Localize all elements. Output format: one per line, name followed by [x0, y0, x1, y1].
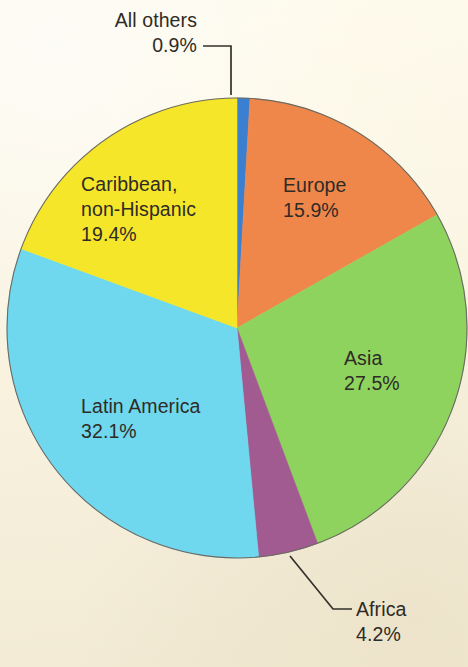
- africa-leader-line: [290, 556, 352, 609]
- all-others-leader-line: [203, 46, 231, 95]
- slice-label-latin-america-value: 32.1%: [81, 420, 137, 442]
- slice-label-africa-name: Africa: [356, 598, 406, 620]
- pie-chart-svg: All others 0.9% Europe 15.9% Asia 27.5% …: [0, 0, 468, 667]
- slice-label-africa-value: 4.2%: [356, 623, 401, 645]
- slice-label-europe-value: 15.9%: [283, 199, 339, 221]
- pie-slices-group: [7, 98, 467, 558]
- slice-label-all-others-name: All others: [115, 9, 197, 31]
- slice-label-latin-america-name: Latin America: [81, 395, 200, 417]
- slice-label-europe-name: Europe: [283, 174, 346, 196]
- slice-label-asia-name: Asia: [344, 347, 382, 369]
- slice-label-asia-value: 27.5%: [344, 372, 400, 394]
- pie-chart: All others 0.9% Europe 15.9% Asia 27.5% …: [0, 0, 468, 667]
- slice-label-caribbean-name: Caribbean,: [81, 173, 177, 195]
- slice-label-all-others-value: 0.9%: [152, 34, 197, 56]
- slice-label-caribbean-name-2: non-Hispanic: [81, 198, 196, 220]
- slice-label-caribbean-value: 19.4%: [81, 223, 137, 245]
